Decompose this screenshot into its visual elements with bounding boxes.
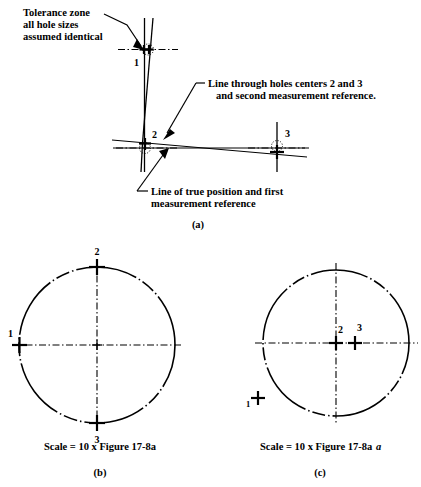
line-through-holes-leader	[163, 83, 205, 140]
panel-c-hole-3-cross	[348, 336, 362, 350]
panel-b-hole-1-cross	[12, 337, 27, 353]
hole-1-group	[118, 18, 178, 143]
panel-a-text: Tolerance zone all hole sizes assumed id…	[23, 7, 376, 231]
panel-c-text: 2 3 1 Scale = 10 x Figure 17-8a a (c)	[246, 322, 381, 479]
panel-c-hole-label-2: 2	[338, 324, 343, 335]
hole-3-group	[248, 122, 310, 172]
line-through-holes-note-line-2: and second measurement reference.	[216, 90, 376, 101]
panel-b-hole-label-1: 1	[8, 328, 13, 339]
panel-c-letter: (c)	[314, 467, 326, 479]
true-position-note-line-1: Line of true position and first	[151, 186, 284, 197]
tolerance-zone-note-line-2: all hole sizes	[23, 19, 78, 30]
panel-a-hole-label-1: 1	[134, 57, 139, 68]
panel-a-hole-label-3: 3	[285, 128, 290, 139]
panel-c-hole-label-1: 1	[246, 399, 250, 409]
figure-canvas: Tolerance zone all hole sizes assumed id…	[0, 0, 421, 487]
tolerance-zone-note-line-1: Tolerance zone	[23, 7, 90, 18]
panel-b-caption: Scale = 10 x Figure 17-8a	[44, 441, 157, 452]
line-through-holes-note-line-1: Line through holes centers 2 and 3	[208, 78, 362, 89]
panel-b-hole-2-cross	[89, 259, 105, 275]
panel-a-drawing	[104, 14, 310, 191]
panel-c-caption: Scale = 10 x Figure 17-8a	[260, 441, 373, 452]
true-position-note-line-2: measurement reference	[151, 198, 256, 209]
panel-b-hole-3-cross	[89, 415, 105, 431]
panel-c-hole-label-3: 3	[357, 322, 362, 333]
panel-c-hole-2-cross	[329, 336, 343, 350]
panel-a-hole-label-2: 2	[152, 129, 157, 140]
panel-c-hole-1-cross	[251, 391, 265, 405]
panel-b-drawing	[12, 259, 182, 431]
hole-3-cross	[270, 145, 284, 159]
panel-b-center-cross	[92, 340, 102, 350]
panel-b-letter: (b)	[94, 467, 107, 479]
tolerance-zone-note-line-3: assumed identical	[23, 31, 103, 42]
panel-c-drawing	[251, 263, 418, 424]
panel-b-text: 2 3 1 Scale = 10 x Figure 17-8a (b)	[8, 246, 157, 479]
panel-a-letter: (a)	[192, 219, 205, 231]
technical-figure: Tolerance zone all hole sizes assumed id…	[0, 0, 421, 487]
panel-c-caption-italic-suffix: a	[376, 441, 381, 452]
tolerance-zone-leader	[104, 14, 144, 50]
panel-b-hole-label-2: 2	[95, 246, 100, 257]
